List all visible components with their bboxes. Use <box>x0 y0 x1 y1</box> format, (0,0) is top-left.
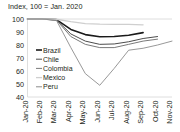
legend-label-mexico: Mexico <box>43 74 65 81</box>
x-axis-tick-jul-20: Jul-20 <box>107 100 116 120</box>
series-line-chile <box>28 19 158 44</box>
y-axis-tick-100: 100 <box>12 15 24 24</box>
x-axis-tick-mar-20: Mar-20 <box>49 101 58 124</box>
x-axis-tick-apr-20: Apr-20 <box>64 101 73 123</box>
legend-label-peru: Peru <box>43 83 58 90</box>
y-axis-tick-90: 90 <box>16 28 24 37</box>
chart-plot-area: 405060708090100 BrazilChileColombiaMexic… <box>0 0 180 132</box>
x-axis-tick-labels: Jan-20Feb-20Mar-20Apr-20May-20Jun-20Jul-… <box>21 100 175 124</box>
y-axis-tick-60: 60 <box>16 67 24 76</box>
x-axis-tick-aug-20: Aug-20 <box>122 101 131 124</box>
legend-label-brazil: Brazil <box>43 47 61 54</box>
x-axis-tick-feb-20: Feb-20 <box>35 101 44 124</box>
y-axis-tick-labels: 405060708090100 <box>12 15 24 102</box>
legend-label-chile: Chile <box>43 56 59 63</box>
chart-legend: BrazilChileColombiaMexicoPeru <box>36 47 73 91</box>
y-axis-tick-80: 80 <box>16 41 24 50</box>
y-axis-tick-70: 70 <box>16 54 24 63</box>
series-line-brazil <box>28 19 144 37</box>
x-axis-tick-sep-20: Sep-20 <box>136 101 145 124</box>
y-axis-tick-40: 40 <box>16 93 24 102</box>
x-axis-tick-may-20: May-20 <box>78 100 87 124</box>
y-axis-tick-50: 50 <box>16 80 24 89</box>
x-axis-tick-jan-20: Jan-20 <box>21 101 30 123</box>
legend-label-colombia: Colombia <box>43 65 73 72</box>
x-axis-tick-oct-20: Oct-20 <box>151 101 160 123</box>
x-axis-tick-jun-20: Jun-20 <box>93 101 102 123</box>
chart-container: Index, 100 = Jan. 2020 405060708090100 B… <box>0 0 180 132</box>
x-axis-tick-nov-20: Nov-20 <box>165 100 174 123</box>
